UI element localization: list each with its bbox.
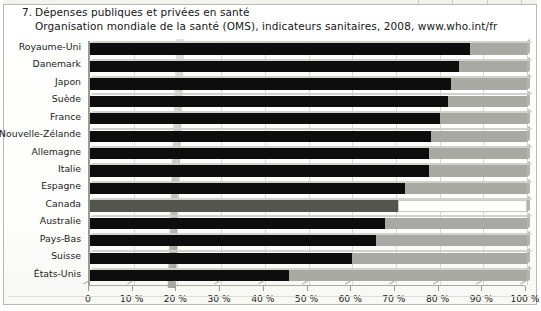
x-tick-60	[350, 286, 351, 291]
bar-segment-private[interactable]	[448, 96, 527, 107]
x-tick-label: 100 %	[510, 293, 539, 304]
bar-depth-cap	[527, 196, 530, 212]
bar-row[interactable]	[90, 163, 527, 180]
bar-segment-public[interactable]	[90, 148, 429, 159]
stacked-bar[interactable]	[90, 148, 527, 159]
bar-segment-private[interactable]	[451, 78, 527, 89]
figure-page: 7.Dépenses publiques et privées en santé…	[0, 0, 541, 311]
bar-depth-cap	[527, 126, 530, 142]
bar-segment-public[interactable]	[90, 183, 405, 194]
figure-number: 7.	[22, 6, 35, 18]
bar-row[interactable]	[90, 268, 527, 285]
bar-segment-private[interactable]	[431, 131, 527, 142]
bar-segment-public[interactable]	[90, 200, 398, 211]
stacked-bar[interactable]	[90, 96, 527, 107]
bar-depth-cap	[527, 178, 530, 194]
stacked-bar[interactable]	[90, 113, 527, 124]
stacked-bar[interactable]	[90, 235, 527, 246]
bar-segment-private[interactable]	[398, 200, 527, 211]
stacked-bar[interactable]	[90, 78, 527, 89]
bar-segment-public[interactable]	[90, 61, 459, 72]
bar-depth-cap	[527, 39, 530, 55]
x-tick-80	[438, 286, 439, 291]
bar-segment-private[interactable]	[289, 270, 527, 281]
bar-segment-private[interactable]	[440, 113, 527, 124]
bar-depth-cap	[527, 74, 530, 90]
figure-source: Organisation mondiale de la santé (OMS),…	[22, 20, 522, 32]
bar-depth-cap	[527, 56, 530, 72]
category-label: Royaume-Uni	[0, 42, 81, 52]
bar-segment-public[interactable]	[90, 270, 289, 281]
bar-row[interactable]	[90, 146, 527, 163]
x-tick-label: 70 %	[382, 293, 405, 304]
bar-row[interactable]	[90, 93, 527, 110]
category-label: Australie	[0, 216, 81, 226]
bar-segment-public[interactable]	[90, 218, 385, 229]
category-label: Espagne	[0, 181, 81, 191]
category-label: Nouvelle-Zélande	[0, 129, 81, 139]
bar-row[interactable]	[90, 111, 527, 128]
stacked-bar[interactable]	[90, 165, 527, 176]
bar-depth-cap	[527, 143, 530, 159]
bar-segment-public[interactable]	[90, 113, 440, 124]
stacked-bar[interactable]	[90, 131, 527, 142]
bar-depth-cap	[527, 231, 530, 247]
bar-segment-private[interactable]	[429, 165, 527, 176]
stacked-bar[interactable]	[90, 270, 527, 281]
bar-depth-cap	[527, 91, 530, 107]
x-tick-label: 20 %	[164, 293, 187, 304]
page-title: Dépenses publiques et privées en santé	[35, 6, 250, 18]
bar-segment-public[interactable]	[90, 96, 448, 107]
bar-segment-public[interactable]	[90, 43, 470, 54]
bar-row[interactable]	[90, 128, 527, 145]
stacked-bar[interactable]	[90, 218, 527, 229]
category-label: Canada	[0, 199, 81, 209]
x-tick-label: 10 %	[120, 293, 143, 304]
stacked-bar[interactable]	[90, 183, 527, 194]
bar-row[interactable]	[90, 58, 527, 75]
figure-heading: 7.Dépenses publiques et privées en santé…	[22, 6, 522, 32]
bar-segment-public[interactable]	[90, 165, 429, 176]
bar-segment-private[interactable]	[459, 61, 527, 72]
bar-segment-public[interactable]	[90, 235, 376, 246]
page-bottom-rule	[8, 296, 532, 297]
stacked-bar[interactable]	[90, 61, 527, 72]
bar-depth-cap	[527, 248, 530, 264]
x-tick-label: 80 %	[426, 293, 449, 304]
x-tick-label: 60 %	[339, 293, 362, 304]
category-label: États-Unis	[0, 269, 81, 279]
category-label: Danemark	[0, 59, 81, 69]
bar-segment-private[interactable]	[385, 218, 527, 229]
bar-row[interactable]	[90, 180, 527, 197]
category-label: Pays-Bas	[0, 234, 81, 244]
stacked-bar[interactable]	[90, 253, 527, 264]
bar-segment-private[interactable]	[376, 235, 527, 246]
bar-segment-public[interactable]	[90, 78, 451, 89]
x-tick-0	[88, 286, 89, 291]
category-label: Italie	[0, 164, 81, 174]
x-tick-70	[394, 286, 395, 291]
bar-row[interactable]	[90, 233, 527, 250]
x-tick-label: 30 %	[207, 293, 230, 304]
bar-segment-private[interactable]	[352, 253, 527, 264]
bar-row[interactable]	[90, 41, 527, 58]
value-axis: 010 %20 %30 %40 %50 %60 %70 %80 %90 %100…	[88, 286, 525, 308]
bar-row[interactable]	[90, 215, 527, 232]
x-tick-50	[307, 286, 308, 291]
x-tick-30	[219, 286, 220, 291]
category-label: Allemagne	[0, 147, 81, 157]
bar-row[interactable]	[90, 198, 527, 215]
category-label: Suisse	[0, 251, 81, 261]
x-tick-label: 40 %	[251, 293, 274, 304]
bar-segment-private[interactable]	[429, 148, 527, 159]
bar-row[interactable]	[90, 250, 527, 267]
bar-row[interactable]	[90, 76, 527, 93]
bar-segment-private[interactable]	[405, 183, 527, 194]
figure-title-line: 7.Dépenses publiques et privées en santé	[22, 6, 522, 18]
stacked-bar[interactable]	[90, 200, 527, 211]
x-tick-40	[263, 286, 264, 291]
bar-segment-public[interactable]	[90, 253, 352, 264]
bar-segment-public[interactable]	[90, 131, 431, 142]
bar-segment-private[interactable]	[470, 43, 527, 54]
stacked-bar[interactable]	[90, 43, 527, 54]
